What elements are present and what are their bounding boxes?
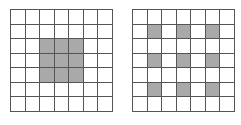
grid-cell-filled	[55, 54, 70, 69]
grid-cell-empty	[191, 25, 206, 40]
grid-cell-empty	[26, 97, 41, 112]
grid-cell-empty	[26, 10, 41, 25]
grid-cell-empty	[84, 83, 99, 98]
grid-cell-empty	[133, 97, 148, 112]
grid-cell-empty	[11, 68, 26, 83]
grid-cell-empty	[84, 54, 99, 69]
grid-cell-empty	[69, 10, 84, 25]
grid-cell-empty	[55, 10, 70, 25]
grid-cell-filled	[148, 54, 163, 69]
grid-cell-empty	[98, 39, 113, 54]
grid-cell-empty	[148, 97, 163, 112]
grid-cell-empty	[220, 39, 235, 54]
grid-cell-empty	[69, 83, 84, 98]
left-grid-contiguous-block	[10, 9, 113, 112]
grid-cell-empty	[84, 25, 99, 40]
grid-cell-empty	[162, 25, 177, 40]
grid-cell-empty	[177, 68, 192, 83]
grid-cell-empty	[11, 97, 26, 112]
grid-cell-empty	[206, 97, 221, 112]
grid-cell-empty	[26, 83, 41, 98]
grid-cell-empty	[26, 25, 41, 40]
grid-cell-empty	[55, 83, 70, 98]
grid-cell-empty	[55, 97, 70, 112]
grid-cell-empty	[162, 83, 177, 98]
grid-cell-filled	[206, 54, 221, 69]
grid-cell-empty	[191, 83, 206, 98]
grid-cell-empty	[11, 54, 26, 69]
grid-cell-empty	[220, 97, 235, 112]
grid-cell-filled	[206, 83, 221, 98]
grid-cell-empty	[69, 97, 84, 112]
grid-cell-empty	[98, 68, 113, 83]
grid-cell-empty	[220, 54, 235, 69]
grid-cell-empty	[162, 39, 177, 54]
grid-cell-filled	[69, 54, 84, 69]
grid-cell-empty	[84, 68, 99, 83]
grid-cell-empty	[40, 25, 55, 40]
grid-cell-empty	[133, 10, 148, 25]
grid-cell-empty	[191, 68, 206, 83]
grid-cell-empty	[11, 39, 26, 54]
grid-cell-filled	[69, 39, 84, 54]
grid-cell-empty	[220, 68, 235, 83]
grid-cell-empty	[84, 39, 99, 54]
grid-cell-filled	[55, 39, 70, 54]
grid-cell-empty	[11, 83, 26, 98]
grid-cell-empty	[162, 68, 177, 83]
grid-cell-empty	[191, 54, 206, 69]
grid-cell-filled	[148, 25, 163, 40]
grid-cell-filled	[55, 68, 70, 83]
grid-cell-empty	[191, 97, 206, 112]
grid-cell-empty	[133, 83, 148, 98]
grid-cell-empty	[133, 39, 148, 54]
grid-cell-empty	[11, 10, 26, 25]
grid-cell-empty	[148, 10, 163, 25]
grid-cell-empty	[206, 39, 221, 54]
grid-cell-empty	[26, 68, 41, 83]
grid-cell-empty	[133, 54, 148, 69]
grid-cell-empty	[11, 25, 26, 40]
grid-cell-empty	[191, 10, 206, 25]
grid-cell-filled	[40, 68, 55, 83]
grid-cell-empty	[162, 54, 177, 69]
grid-cell-empty	[206, 10, 221, 25]
grid-cell-empty	[162, 10, 177, 25]
grid-cell-empty	[220, 83, 235, 98]
grid-cell-empty	[98, 54, 113, 69]
grid-cell-empty	[148, 68, 163, 83]
grid-cell-filled	[177, 25, 192, 40]
grid-cell-filled	[69, 68, 84, 83]
grid-cell-empty	[220, 25, 235, 40]
grid-cell-empty	[40, 97, 55, 112]
grid-cell-empty	[55, 25, 70, 40]
grid-cell-filled	[177, 83, 192, 98]
grid-cell-filled	[148, 83, 163, 98]
grid-cell-empty	[133, 25, 148, 40]
grid-cell-empty	[40, 83, 55, 98]
grid-cell-empty	[177, 97, 192, 112]
grid-cell-empty	[84, 97, 99, 112]
grid-cell-filled	[206, 25, 221, 40]
grid-cell-empty	[148, 39, 163, 54]
grid-cell-empty	[98, 97, 113, 112]
grid-cell-empty	[84, 10, 99, 25]
grid-cell-empty	[133, 68, 148, 83]
grid-cell-empty	[98, 10, 113, 25]
grid-cell-filled	[177, 54, 192, 69]
grid-cell-empty	[177, 10, 192, 25]
grid-cell-filled	[40, 39, 55, 54]
grid-cell-empty	[40, 10, 55, 25]
grid-cell-empty	[98, 25, 113, 40]
grid-cell-empty	[206, 68, 221, 83]
grid-cell-empty	[191, 39, 206, 54]
grid-cell-filled	[40, 54, 55, 69]
grid-cell-empty	[220, 10, 235, 25]
grid-cell-empty	[26, 54, 41, 69]
grid-cell-empty	[26, 39, 41, 54]
grid-cell-empty	[162, 97, 177, 112]
grid-cell-empty	[69, 25, 84, 40]
right-grid-dispersed-cells	[132, 9, 235, 112]
grid-cell-empty	[98, 83, 113, 98]
grid-cell-empty	[177, 39, 192, 54]
